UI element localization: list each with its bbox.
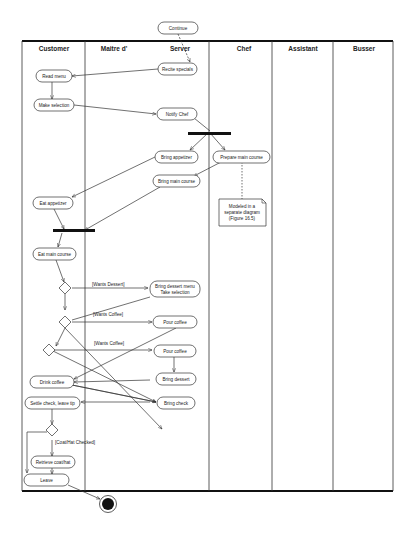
lane-title-busser: Busser: [353, 45, 376, 52]
decision-dessert: [59, 282, 71, 294]
guard-wants-coffee-1: [Wants Coffee]: [93, 312, 123, 317]
svg-text:Bring dessert menu: Bring dessert menu: [155, 284, 195, 289]
svg-text:Retrieve coat/hat: Retrieve coat/hat: [36, 460, 71, 465]
svg-text:Notify Chef: Notify Chef: [166, 112, 189, 117]
svg-text:(Figure 16.5): (Figure 16.5): [229, 216, 256, 221]
lane-title-maitre-d: Maitre d': [101, 45, 128, 52]
svg-text:Continue: Continue: [169, 26, 188, 31]
node-bring-main-course: Bring main course: [153, 175, 200, 187]
join-bar: [53, 229, 95, 232]
svg-text:Pour coffee: Pour coffee: [163, 320, 187, 325]
lane-title-assistant: Assistant: [288, 45, 318, 52]
svg-text:Prepare main course: Prepare main course: [220, 155, 263, 160]
svg-text:Bring appetizer: Bring appetizer: [161, 155, 192, 160]
node-settle-check: Settle check, leave tip: [25, 397, 80, 409]
svg-text:Leave: Leave: [40, 478, 53, 483]
node-eat-appetizer: Eat appetizer: [33, 197, 73, 209]
svg-text:Settle check, leave tip: Settle check, leave tip: [30, 401, 75, 406]
svg-text:Bring main course: Bring main course: [158, 179, 195, 184]
node-bring-dessert: Bring dessert: [156, 373, 196, 385]
decision-coffee-1: [59, 316, 71, 328]
fork-bar: [188, 132, 231, 135]
node-pour-coffee-2: Pour coffee: [154, 345, 196, 357]
guard-wants-coffee-2: [Wants Coffee]: [94, 341, 124, 346]
svg-text:Make selection: Make selection: [39, 103, 70, 108]
svg-text:Read menu: Read menu: [42, 74, 66, 79]
node-retrieve-coat: Retrieve coat/hat: [31, 456, 75, 468]
guard-coat-checked: [Coat/Hat Checked]: [55, 440, 95, 445]
svg-text:Bring dessert: Bring dessert: [162, 377, 190, 382]
decision-coat-checked: [46, 424, 58, 436]
decision-coffee-2: [43, 344, 55, 356]
node-drink-coffee: Drink coffee: [30, 376, 74, 388]
node-prepare-main-course: Prepare main course: [213, 151, 270, 163]
node-pour-coffee-1: Pour coffee: [153, 316, 197, 328]
svg-text:Pour coffee: Pour coffee: [163, 349, 187, 354]
final-node: [100, 496, 117, 513]
note-separate-diagram: Modeled in a separate diagram (Figure 16…: [219, 199, 266, 226]
svg-text:Eat appetizer: Eat appetizer: [39, 201, 67, 206]
lane-title-server: Server: [170, 45, 191, 52]
node-continue: Continue: [158, 22, 198, 34]
svg-text:Take selection: Take selection: [160, 290, 190, 295]
node-notify-chef: Notify Chef: [157, 108, 197, 120]
svg-text:separate diagram: separate diagram: [224, 210, 260, 215]
svg-text:Drink coffee: Drink coffee: [40, 380, 65, 385]
svg-text:Eat main course: Eat main course: [38, 252, 72, 257]
node-make-selection: Make selection: [34, 99, 74, 111]
svg-text:Bring check: Bring check: [164, 401, 189, 406]
node-read-menu: Read menu: [36, 70, 72, 82]
node-eat-main-course: Eat main course: [33, 248, 76, 260]
node-recite-specials: Recite specials: [158, 63, 197, 75]
node-bring-check: Bring check: [157, 397, 195, 409]
guard-wants-dessert: [Wants Dessert]: [92, 282, 125, 287]
node-bring-dessert-menu: Bring dessert menu Take selection: [150, 281, 200, 297]
node-bring-appetizer: Bring appetizer: [155, 151, 198, 163]
activity-diagram: Customer Maitre d' Server Chef Assistant…: [0, 0, 411, 535]
node-leave: Leave: [24, 474, 69, 486]
lane-title-chef: Chef: [237, 45, 252, 52]
swimlane-frame: [22, 41, 393, 491]
svg-text:Recite specials: Recite specials: [162, 67, 194, 72]
svg-text:Modeled in a: Modeled in a: [229, 204, 256, 209]
lane-title-customer: Customer: [39, 45, 70, 52]
